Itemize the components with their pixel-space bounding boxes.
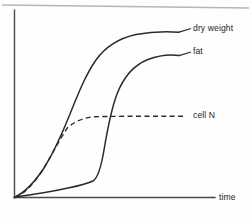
growth-curve-figure: dry weight fat cell N time [0,0,251,218]
cell-n-curve [15,116,186,197]
series-label-fat: fat [193,47,203,56]
series-label-dry-weight: dry weight [193,24,233,33]
fat-leader [179,52,191,56]
dry-weight-leader [179,29,191,33]
top-frame-rule [2,5,249,8]
x-axis-label: time [219,193,236,202]
fat-curve [15,55,179,197]
series-label-cell-n: cell N [193,111,215,120]
dry-weight-curve [15,32,179,197]
